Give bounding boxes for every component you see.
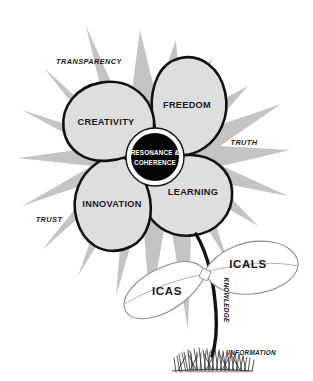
petal-label-creativity: CREATIVITY [78,117,135,127]
stem-line [196,234,216,356]
leaf-label-icas: ICAS [152,285,182,297]
leaf-icas[interactable]: ICAS [124,262,206,319]
leaf-label-icals: ICALS [229,258,267,270]
ray-label-trust: TRUST [36,215,64,224]
stem-group [196,234,216,356]
core-label-line1: RESONANCE & [131,149,180,156]
ray-label-truth: TRUTH [230,138,257,147]
core-label-line2: COHERENCE [134,159,176,166]
core-disc [131,133,179,181]
knowledge-flower-figure: FREEDOM LEARNING INNOVATION CREATIVITY [0,0,313,381]
ray-label-transparency: TRANSPARENCY [56,57,123,66]
petal-label-innovation: INNOVATION [82,199,141,209]
stem-label-knowledge: KNOWLEDGE [223,278,230,323]
leaf-icals[interactable]: ICALS [204,241,298,294]
petal-label-learning: LEARNING [168,187,218,197]
core-group[interactable]: RESONANCE & COHERENCE [126,128,184,186]
diagram-canvas: FREEDOM LEARNING INNOVATION CREATIVITY [0,0,313,381]
petal-label-freedom: FREEDOM [163,100,211,110]
